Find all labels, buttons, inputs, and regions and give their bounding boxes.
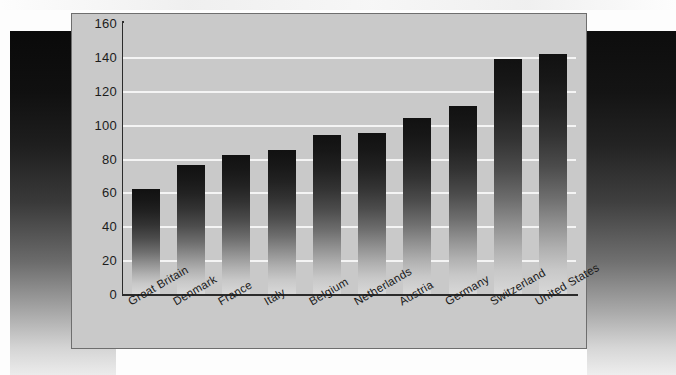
bar-chart-panel: 160140120100806040200 Great BritainDenma… (71, 13, 587, 349)
y-tick-label: 100 (77, 117, 117, 132)
plot-area (123, 23, 576, 294)
x-axis-category-labels: Great BritainDenmarkFranceItalyBelgiumNe… (123, 297, 576, 357)
y-tick-label: 20 (77, 253, 117, 268)
bar (132, 189, 160, 294)
bar (494, 59, 522, 294)
y-tick-label: 140 (77, 49, 117, 64)
bar (539, 54, 567, 295)
y-tick-label: 60 (77, 185, 117, 200)
y-tick-label: 40 (77, 219, 117, 234)
chart-page: 160140120100806040200 Great BritainDenma… (0, 0, 676, 375)
bar (313, 135, 341, 294)
scan-artifact-strip (0, 0, 676, 10)
y-tick-label: 120 (77, 83, 117, 98)
bar (358, 133, 386, 294)
bar (222, 155, 250, 294)
right-dark-gradient-block (587, 31, 676, 375)
y-tick-label: 160 (77, 16, 117, 31)
y-tick-label: 80 (77, 151, 117, 166)
y-tick-label: 0 (77, 287, 117, 302)
y-axis-tick-labels: 160140120100806040200 (72, 23, 117, 294)
bar (268, 150, 296, 294)
bar (449, 106, 477, 294)
